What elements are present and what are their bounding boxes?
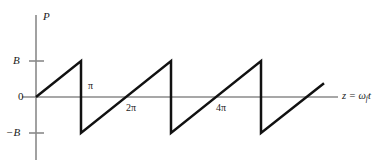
x-axis-label-z: z = bbox=[342, 90, 358, 101]
sawtooth-waveform-figure: P B 0 −B π 2π 4π z = ωft bbox=[0, 0, 383, 166]
x-axis-label: z = ωft bbox=[342, 91, 371, 103]
x-tick-label-pi: π bbox=[88, 81, 93, 91]
y-tick-label-b: B bbox=[13, 55, 20, 66]
x-tick-label-4pi: 4π bbox=[216, 103, 226, 113]
y-tick-label-neg-b: −B bbox=[6, 127, 20, 138]
y-tick-label-zero: 0 bbox=[18, 91, 24, 102]
x-axis-label-omega: ω bbox=[358, 90, 365, 101]
plot-canvas bbox=[0, 0, 383, 166]
x-tick-label-2pi: 2π bbox=[126, 103, 136, 113]
y-axis-label: P bbox=[43, 11, 50, 22]
x-axis-label-t: t bbox=[368, 90, 371, 101]
